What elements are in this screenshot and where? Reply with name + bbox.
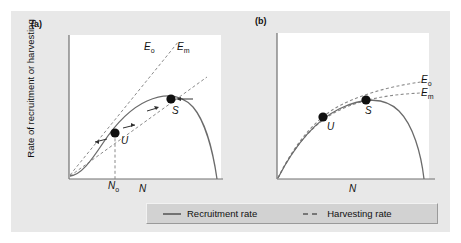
label-u-b: U xyxy=(327,121,334,132)
label-s-a: S xyxy=(172,105,179,116)
plot-area-a xyxy=(69,35,221,179)
panel-a: (a) Rate of recruitment or harvesting N xyxy=(11,11,239,201)
plot-area-b xyxy=(277,33,429,179)
panel-b: (b) N Eo Em U S xyxy=(239,11,450,201)
label-em-a: Em xyxy=(177,41,190,54)
panel-b-plot xyxy=(239,11,450,201)
figure-container: (a) Rate of recruitment or harvesting N xyxy=(11,11,450,232)
point-u-a xyxy=(110,128,119,137)
label-eo-a: Eo xyxy=(144,41,155,54)
point-s-b xyxy=(361,95,370,104)
label-no: No xyxy=(108,180,119,193)
legend-item-harvesting: Harvesting rate xyxy=(303,208,391,219)
label-s-b: S xyxy=(365,105,372,116)
legend-item-recruitment: Recruitment rate xyxy=(163,208,257,219)
label-eo-b: Eo xyxy=(421,74,432,87)
legend: Recruitment rate Harvesting rate xyxy=(146,203,438,224)
point-s-a xyxy=(166,94,175,103)
panel-a-plot xyxy=(11,11,239,201)
label-u-a: U xyxy=(121,135,128,146)
legend-label-harvesting: Harvesting rate xyxy=(327,208,391,219)
solid-line-icon xyxy=(163,210,181,218)
legend-label-recruitment: Recruitment rate xyxy=(187,208,257,219)
label-em-b: Em xyxy=(421,87,434,100)
dashed-line-icon xyxy=(303,210,321,218)
